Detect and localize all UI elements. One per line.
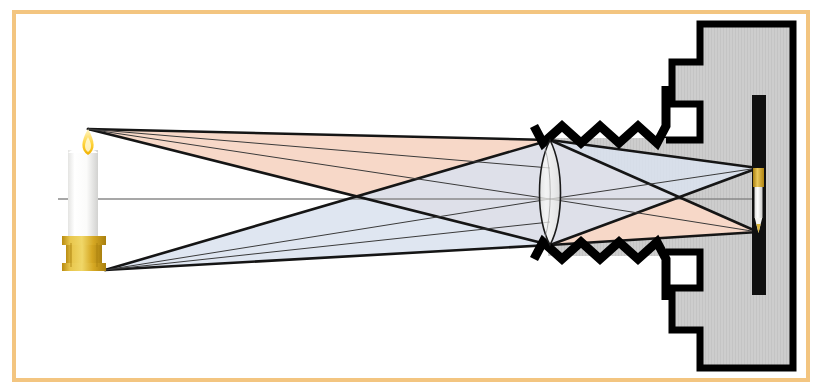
diagram-canvas — [0, 0, 822, 392]
candle-holder-base-flange — [62, 263, 106, 271]
candle-wax-body — [68, 150, 98, 242]
image-wax — [755, 187, 763, 218]
image-holder — [753, 168, 764, 187]
candle-holder-top-flange — [62, 236, 106, 245]
film-plane — [752, 95, 766, 295]
optics-diagram-svg — [0, 0, 822, 392]
